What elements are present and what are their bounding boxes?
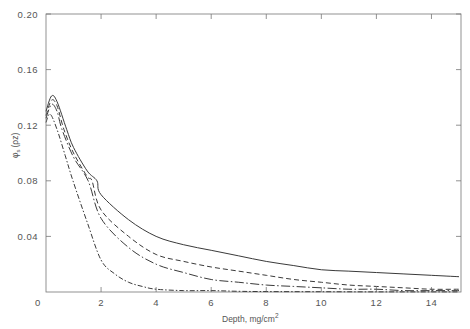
x-tick-label: 14 xyxy=(426,297,438,308)
x-tick-label: 4 xyxy=(153,297,159,308)
y-tick-label: 0.20 xyxy=(18,9,39,20)
y-tick-label: 0.08 xyxy=(18,175,39,186)
y-tick-label: 0.12 xyxy=(18,120,39,131)
x-axis-title: Depth, mg/cm2 xyxy=(222,312,279,324)
x-axis-title-main: Depth, mg/cm xyxy=(222,314,275,324)
y-axis-title-arg: (ρz) xyxy=(10,133,20,148)
y-tick-label: 0.04 xyxy=(18,231,39,242)
series-line-solid xyxy=(46,95,459,276)
x-tick-label: 0 xyxy=(35,297,41,308)
series-line-dashed xyxy=(46,100,459,290)
x-tick-label: 2 xyxy=(98,297,104,308)
x-tick-label: 12 xyxy=(371,297,383,308)
plot-frame xyxy=(46,14,461,292)
x-tick-label: 8 xyxy=(263,297,269,308)
x-axis-title-sup: 2 xyxy=(275,312,279,319)
axis-ticks xyxy=(46,14,461,292)
y-tick-labels: 0.040.080.120.160.20 xyxy=(18,9,39,242)
y-tick-label: 0.16 xyxy=(18,64,39,75)
chart: 02468101214 0.040.080.120.160.20 Depth, … xyxy=(0,0,470,329)
x-tick-labels: 02468101214 xyxy=(35,297,437,308)
series-line-long-dash-dot xyxy=(46,104,459,291)
y-axis-title: φs(ρz) xyxy=(10,133,21,158)
plot-border xyxy=(46,14,461,292)
x-tick-label: 6 xyxy=(208,297,214,308)
data-series xyxy=(46,95,459,291)
x-tick-label: 10 xyxy=(316,297,328,308)
series-line-short-dash-dot xyxy=(46,114,459,292)
y-axis-title-sub: s xyxy=(15,149,21,152)
